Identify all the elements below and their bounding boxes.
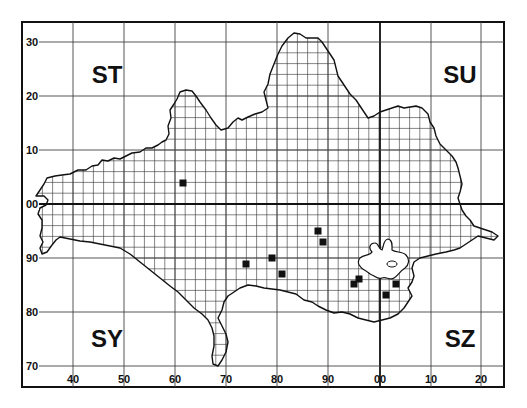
y-tick-label: 90 [26, 252, 38, 264]
x-tick-label: 10 [425, 373, 437, 385]
record-square [356, 276, 363, 283]
record-square [383, 292, 390, 299]
grid-square-label: SU [443, 61, 476, 88]
x-tick-label: 40 [67, 373, 79, 385]
brownsea-island [387, 261, 397, 267]
y-tick-label: 10 [26, 144, 38, 156]
x-tick-label: 60 [169, 373, 181, 385]
grid-square-label: SY [91, 325, 123, 352]
grid-square-label: ST [92, 61, 123, 88]
x-tick-label: 80 [271, 373, 283, 385]
x-tick-label: 90 [322, 373, 334, 385]
x-axis-ticks: 405060708090001020 [67, 373, 487, 385]
x-tick-label: 00 [374, 373, 386, 385]
x-tick-label: 50 [118, 373, 130, 385]
record-square [243, 261, 250, 268]
x-tick-label: 70 [220, 373, 232, 385]
grid-square-label: SZ [445, 325, 476, 352]
record-square [269, 255, 276, 262]
record-square [279, 271, 286, 278]
y-tick-label: 00 [26, 198, 38, 210]
y-tick-label: 20 [26, 90, 38, 102]
record-square [315, 228, 322, 235]
record-square [320, 239, 327, 246]
x-tick-label: 20 [475, 373, 487, 385]
y-tick-label: 30 [26, 36, 38, 48]
distribution-map: STSUSYSZ 405060708090001020 302010009080… [0, 0, 527, 408]
record-square [180, 180, 187, 187]
y-tick-label: 80 [26, 306, 38, 318]
record-square [393, 281, 400, 288]
y-tick-label: 70 [26, 360, 38, 372]
